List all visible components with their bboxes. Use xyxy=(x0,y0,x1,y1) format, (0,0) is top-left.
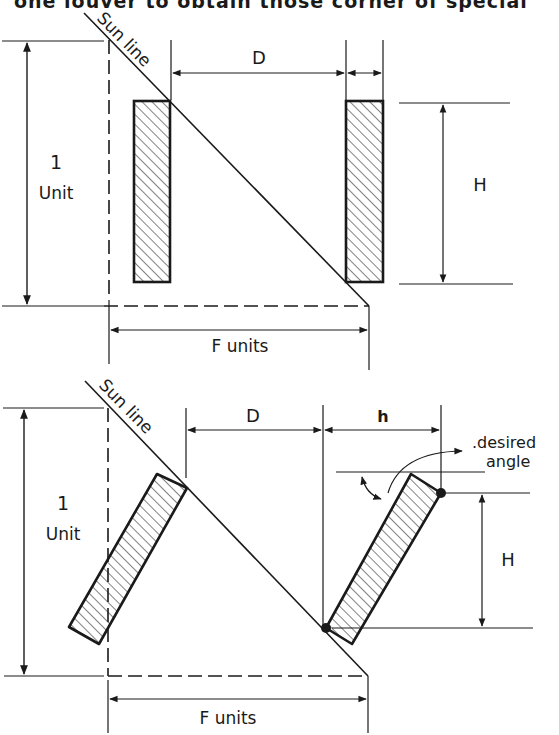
bottom-left-slat xyxy=(69,474,187,644)
top-d-label: D xyxy=(252,47,266,68)
bottom-unit-label-number: 1 xyxy=(57,492,69,514)
top-left-slat xyxy=(134,101,170,282)
bottom-sun-line-label: Sun line xyxy=(95,375,157,438)
angle-arc xyxy=(362,477,381,499)
louver-shading-diagram: one louver to obtain those corner of spe… xyxy=(0,0,559,735)
bottom-unit-label-text: Unit xyxy=(46,524,81,544)
angle-label-line1: .desired xyxy=(472,433,536,452)
cropped-heading: one louver to obtain those corner of spe… xyxy=(14,0,528,12)
bottom-d-label: D xyxy=(246,405,260,426)
top-labels: Sun line 1 Unit D H F units xyxy=(39,8,487,356)
top-unit-label-number: 1 xyxy=(50,151,62,173)
top-h-label: H xyxy=(473,174,487,195)
diagram-canvas: Sun line 1 Unit D H F units xyxy=(0,0,559,735)
top-f-label: F units xyxy=(212,336,269,356)
bottom-slat-width-label: h xyxy=(377,407,388,426)
bottom-right-slat xyxy=(326,474,441,644)
angle-label-line2: angle xyxy=(486,452,530,471)
top-sun-line-label: Sun line xyxy=(93,8,155,71)
bottom-f-label: F units xyxy=(200,708,257,728)
top-unit-label-text: Unit xyxy=(39,183,74,203)
bottom-h-label: H xyxy=(501,549,515,570)
top-right-slat xyxy=(346,101,383,282)
top-sun-line xyxy=(84,13,369,306)
bottom-diagram xyxy=(3,381,533,733)
